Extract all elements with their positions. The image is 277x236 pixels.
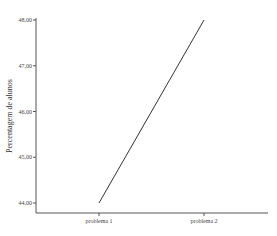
data-line	[99, 20, 204, 203]
y-axis-label: Percentagem de alunos	[5, 79, 14, 153]
y-tick-label: 48,00	[19, 17, 33, 23]
x-tick-label: problema 1	[85, 218, 112, 224]
y-axis: 44,0045,0046,0047,0048,00	[19, 17, 37, 213]
x-axis: problema 1problema 2	[36, 213, 268, 224]
x-tick-label: problema 2	[190, 218, 217, 224]
y-tick-label: 45,00	[19, 154, 33, 160]
y-tick-label: 47,00	[19, 63, 33, 69]
line-chart: 44,0045,0046,0047,0048,00 problema 1prob…	[0, 0, 277, 236]
y-tick-label: 46,00	[19, 109, 33, 115]
y-tick-label: 44,00	[19, 200, 33, 206]
